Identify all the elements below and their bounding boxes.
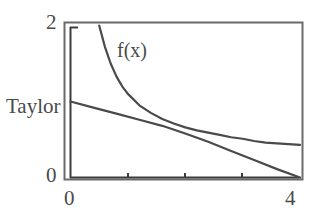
y-axis-tick-label-top: 2 <box>46 12 57 33</box>
series-annotation-fx: f(x) <box>117 40 147 60</box>
x-axis-tick-label-right: 4 <box>285 188 296 209</box>
y-axis-tick-label-bottom: 0 <box>46 165 57 186</box>
x-axis-tick-label-left: 0 <box>64 188 75 209</box>
curve-taylor <box>71 102 301 178</box>
chart-figure: 2 0 0 4 f(x) Taylor <box>0 0 318 221</box>
series-annotation-taylor: Taylor <box>6 96 61 116</box>
plot-outer-frame <box>65 23 303 180</box>
